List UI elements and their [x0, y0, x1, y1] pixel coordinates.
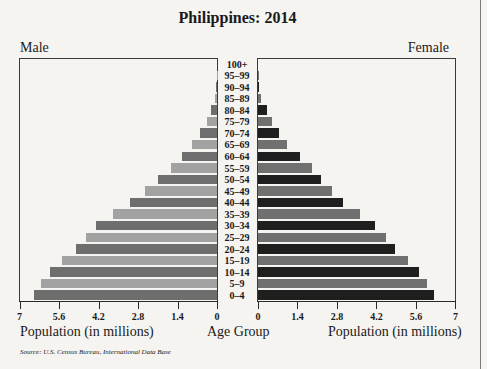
- male-bar: [86, 233, 217, 243]
- male-x-tick: [217, 301, 218, 309]
- female-x-tick-label: 0: [243, 311, 273, 322]
- female-bar: [258, 186, 332, 196]
- age-group-label: 100+: [217, 59, 257, 70]
- female-bar: [258, 71, 259, 81]
- male-x-tick: [20, 301, 21, 309]
- male-bar: [182, 152, 217, 162]
- male-x-tick-label: 1.4: [163, 311, 193, 322]
- age-group-label: 25–29: [217, 232, 257, 243]
- male-bar: [62, 256, 217, 266]
- female-bar: [258, 94, 261, 104]
- female-bar: [258, 175, 321, 185]
- male-x-tick: [138, 301, 139, 309]
- male-x-tick: [178, 301, 179, 309]
- female-x-tick-label: 2.8: [322, 311, 352, 322]
- female-bar: [258, 279, 427, 289]
- female-bar: [258, 163, 312, 173]
- age-group-label: 65–69: [217, 139, 257, 150]
- female-bar: [258, 233, 386, 243]
- age-group-label: 20–24: [217, 244, 257, 255]
- female-bar: [258, 256, 408, 266]
- female-bar: [258, 105, 267, 115]
- male-bar: [200, 128, 217, 138]
- source-note: Source: U.S. Census Bureau, Internationa…: [20, 348, 171, 356]
- female-bar: [258, 267, 419, 277]
- age-group-label: 55–59: [217, 163, 257, 174]
- page-border: [480, 0, 481, 369]
- male-bar: [130, 198, 217, 208]
- female-x-tick-label: 4.2: [361, 311, 391, 322]
- age-group-label: 75–79: [217, 116, 257, 127]
- female-x-tick-label: 5.6: [401, 311, 431, 322]
- female-bar: [258, 244, 395, 254]
- female-x-tick-label: 1.4: [282, 311, 312, 322]
- male-x-axis: [19, 301, 218, 302]
- male-bar: [96, 221, 217, 231]
- age-group-label: 80–84: [217, 105, 257, 116]
- female-bar: [258, 290, 434, 300]
- male-bar: [207, 117, 217, 127]
- female-x-tick: [297, 301, 298, 309]
- age-group-label: 70–74: [217, 128, 257, 139]
- age-group-label: 10–14: [217, 267, 257, 278]
- age-group-label: 95–99: [217, 70, 257, 81]
- female-bar: [258, 82, 259, 92]
- male-bar: [34, 290, 217, 300]
- male-bar: [41, 279, 217, 289]
- male-x-tick-label: 5.6: [44, 311, 74, 322]
- male-bar: [158, 175, 217, 185]
- age-group-label: 5–9: [217, 278, 257, 289]
- age-group-label: 85–89: [217, 93, 257, 104]
- female-bar: [258, 140, 287, 150]
- female-x-tick: [455, 301, 456, 309]
- male-x-tick: [99, 301, 100, 309]
- male-x-tick-label: 0: [202, 311, 232, 322]
- female-bar: [258, 209, 360, 219]
- age-group-label: 35–39: [217, 209, 257, 220]
- male-x-tick: [59, 301, 60, 309]
- age-group-label: 15–19: [217, 255, 257, 266]
- age-group-label: 50–54: [217, 174, 257, 185]
- female-x-tick: [258, 301, 259, 309]
- male-bar: [192, 140, 217, 150]
- female-bar: [258, 152, 300, 162]
- female-x-axis-title: Population (in millions): [328, 324, 462, 340]
- chart-title: Philippines: 2014: [0, 9, 475, 27]
- male-x-axis-title: Population (in millions): [20, 324, 154, 340]
- female-x-tick: [416, 301, 417, 309]
- female-x-tick: [376, 301, 377, 309]
- male-bar: [171, 163, 217, 173]
- female-bar: [258, 221, 375, 231]
- age-group-label: 0–4: [217, 290, 257, 301]
- female-label: Female: [408, 40, 449, 56]
- male-bar: [50, 267, 217, 277]
- age-group-label: 30–34: [217, 220, 257, 231]
- age-group-label: 90–94: [217, 82, 257, 93]
- female-x-tick: [337, 301, 338, 309]
- age-group-label: 60–64: [217, 151, 257, 162]
- female-bar: [258, 198, 343, 208]
- age-group-label: 45–49: [217, 186, 257, 197]
- male-bar: [113, 209, 217, 219]
- female-bar: [258, 128, 279, 138]
- male-x-tick-label: 2.8: [123, 311, 153, 322]
- male-label: Male: [20, 40, 49, 56]
- female-x-tick-label: 7: [440, 311, 470, 322]
- male-x-tick-label: 7: [5, 311, 35, 322]
- female-x-axis: [257, 301, 456, 302]
- female-bar: [258, 117, 272, 127]
- age-group-title: Age Group: [207, 324, 270, 340]
- male-bar: [76, 244, 217, 254]
- age-group-label: 40–44: [217, 197, 257, 208]
- male-bar: [145, 186, 217, 196]
- male-x-tick-label: 4.2: [84, 311, 114, 322]
